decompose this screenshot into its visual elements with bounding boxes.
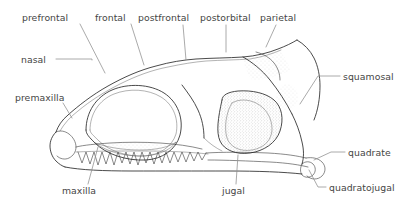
label-quadrate: quadrate bbox=[348, 147, 391, 158]
leader-quadrate bbox=[314, 152, 345, 160]
quadrate-condyle-path bbox=[301, 162, 316, 178]
leader-nasal bbox=[56, 59, 92, 60]
snout-tip-path bbox=[50, 132, 65, 167]
stipple-shading-group bbox=[89, 46, 298, 162]
label-parietal: parietal bbox=[260, 12, 296, 23]
jugal-bar-upper-path bbox=[206, 152, 306, 158]
leader-parietal bbox=[266, 25, 276, 47]
orbit-floor-stipple bbox=[89, 142, 181, 162]
skull-diagram: prefrontalfrontalpostfrontalpostorbitalp… bbox=[0, 0, 408, 213]
label-prefrontal: prefrontal bbox=[22, 12, 68, 23]
parietal-stipple bbox=[240, 46, 296, 84]
leader-lines-group bbox=[56, 24, 345, 187]
label-postfrontal: postfrontal bbox=[138, 12, 189, 23]
label-squamosal: squamosal bbox=[343, 71, 394, 82]
label-maxilla: maxilla bbox=[62, 185, 96, 196]
leader-postfrontal bbox=[183, 25, 186, 60]
jugal-bar-lower-path bbox=[208, 160, 308, 167]
quadratojugal-flange-path bbox=[306, 158, 325, 179]
label-quadratojugal: quadratojugal bbox=[329, 182, 395, 193]
leader-frontal bbox=[131, 24, 144, 65]
ventral-margin-path bbox=[65, 167, 302, 174]
leader-maxilla bbox=[88, 147, 98, 184]
label-jugal: jugal bbox=[222, 185, 245, 196]
label-postorbital: postorbital bbox=[200, 12, 251, 23]
label-frontal: frontal bbox=[95, 12, 126, 23]
leader-prefrontal bbox=[80, 24, 105, 73]
leader-jugal bbox=[236, 155, 238, 184]
label-premaxilla: premaxilla bbox=[15, 92, 64, 103]
label-nasal: nasal bbox=[21, 54, 46, 65]
postorbital-bar-path bbox=[182, 85, 204, 138]
premaxilla-body-path bbox=[56, 131, 76, 159]
occipital-edge-path bbox=[297, 40, 320, 120]
